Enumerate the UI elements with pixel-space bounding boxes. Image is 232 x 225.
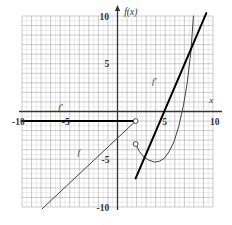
x-tick-label-10: 10 [210, 117, 220, 127]
open-point-marker [133, 119, 138, 124]
y-tick-label--5: -5 [102, 155, 110, 165]
open-point-marker [133, 142, 138, 147]
y-tick-label--10: -10 [97, 203, 110, 213]
y-tick-label-5: 5 [105, 59, 110, 69]
annotation-fx-label: f(x) [124, 7, 137, 18]
x-tick-label-5: 5 [162, 117, 167, 127]
annotation-x-label: x [208, 95, 213, 105]
coordinate-plane: -10-5510105-5-10 f'f'ff(x)x [0, 0, 232, 225]
y-tick-label-10: 10 [100, 12, 110, 22]
x-tick-label--10: -10 [12, 117, 25, 127]
x-tick-label--5: -5 [62, 117, 70, 127]
graph-figure: -10-5510105-5-10 f'f'ff(x)x [0, 0, 232, 225]
